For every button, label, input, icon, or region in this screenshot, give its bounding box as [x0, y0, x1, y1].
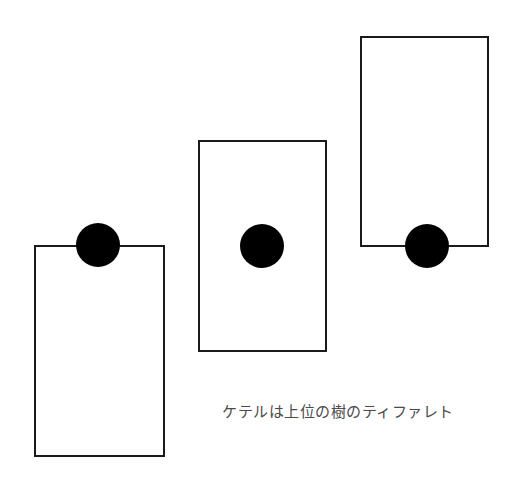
upper-tree-node-malkuth: [405, 224, 449, 268]
lower-tree: [35, 223, 164, 456]
middle-tree: [199, 141, 326, 351]
diagram-caption: ケテルは上位の樹のティファレト: [222, 400, 454, 421]
upper-tree: [361, 37, 488, 268]
lower-tree-rectangle: [35, 246, 164, 456]
lower-tree-node-keter: [76, 223, 120, 267]
upper-tree-rectangle: [361, 37, 488, 246]
middle-tree-node-tiphareth: [240, 224, 284, 268]
